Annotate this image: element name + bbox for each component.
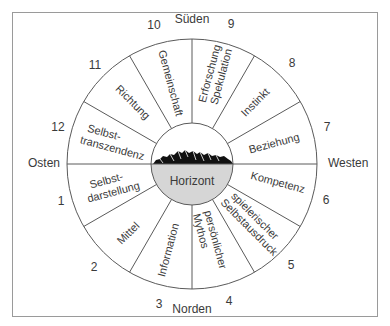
segment-number-11: 11 — [89, 58, 102, 72]
segment-number-10: 10 — [147, 18, 161, 32]
direction-north: Norden — [172, 302, 211, 316]
svg-text:Instinkt: Instinkt — [238, 85, 271, 118]
segment-label-10: Gemeinschaft — [156, 49, 185, 118]
direction-south: Süden — [175, 12, 210, 26]
segment-number-4: 4 — [226, 294, 233, 308]
segment-label-9: Erforschung Spekulation — [196, 43, 235, 107]
svg-text:Mittel: Mittel — [114, 219, 141, 246]
segment-number-1: 1 — [58, 194, 65, 208]
direction-west: Westen — [328, 156, 368, 170]
svg-text:Beziehung: Beziehung — [247, 130, 300, 155]
segment-number-5: 5 — [288, 258, 295, 272]
segment-label-8: Instinkt — [238, 85, 271, 118]
segment-number-2: 2 — [91, 260, 98, 274]
segment-label-7: Beziehung — [247, 130, 300, 155]
segment-number-7: 7 — [324, 120, 331, 134]
segment-number-6: 6 — [323, 193, 330, 207]
segment-label-2: Mittel — [114, 219, 141, 246]
svg-text:Gemeinschaft: Gemeinschaft — [156, 49, 185, 118]
segment-label-11: Richtung — [113, 82, 152, 121]
direction-east: Osten — [28, 156, 60, 170]
wheel-diagram: Horizont Süden Norden Osten Westen 1 2 3… — [0, 0, 390, 326]
svg-text:Richtung: Richtung — [113, 82, 152, 121]
segment-label-6: Kompetenz — [250, 169, 307, 195]
segment-label-12: Selbst- transzendenz — [79, 121, 149, 162]
segment-number-12: 12 — [51, 120, 65, 134]
svg-text:Kompetenz: Kompetenz — [250, 169, 307, 195]
segment-number-8: 8 — [289, 56, 296, 70]
segment-label-3: Information — [155, 222, 181, 278]
segment-number-3: 3 — [156, 297, 163, 311]
segment-label-5: spielerischer Selbstausdruck — [219, 188, 290, 259]
svg-text:Information: Information — [155, 222, 181, 278]
segment-number-9: 9 — [228, 17, 235, 31]
center-label: Horizont — [170, 174, 215, 188]
